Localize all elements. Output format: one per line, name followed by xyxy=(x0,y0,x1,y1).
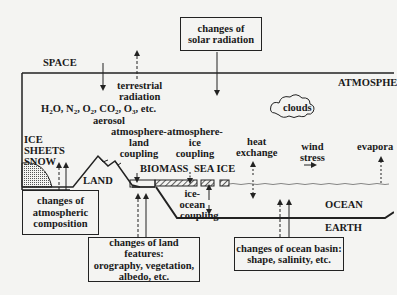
box-line: changes of xyxy=(23,195,98,207)
box-line: shape, salinity, etc. xyxy=(235,254,343,266)
label-line: heat xyxy=(236,136,277,147)
ocean-basin-box: changes of ocean basin: shape, salinity,… xyxy=(234,237,344,271)
box-line: composition xyxy=(23,218,98,230)
label-line: stress xyxy=(300,152,325,163)
label-line: ICE xyxy=(24,134,65,145)
label-line: atmosphere- xyxy=(167,126,223,137)
clouds-label: clouds xyxy=(283,102,312,113)
label-line: terrestrial xyxy=(117,80,162,91)
label-line: ice xyxy=(167,137,223,148)
label-line: ocean xyxy=(166,199,219,210)
ice-ocean-coupling-label: ice- ocean coupling xyxy=(166,188,219,221)
box-line: changes of ocean basin: xyxy=(235,243,343,255)
space-label: SPACE xyxy=(43,57,77,68)
terrestrial-radiation-label: terrestrial radiation xyxy=(117,80,162,102)
label-line: coupling xyxy=(167,148,223,159)
label-line: SHEETS xyxy=(24,145,65,156)
label-line: atmosphere- xyxy=(111,126,167,137)
biomass-label: BIOMASS xyxy=(140,163,188,174)
atmosphere-ice-coupling-label: atmosphere- ice coupling xyxy=(167,126,223,159)
atmosphere-land-coupling-label: atmosphere- land coupling xyxy=(111,126,167,159)
heat-exchange-label: heat exchange xyxy=(236,136,277,158)
land-features-box: changes of land features: orography, veg… xyxy=(88,237,200,282)
box-line: solar radiation xyxy=(181,34,261,46)
box-line: atmospheric xyxy=(23,207,98,219)
sea-ice xyxy=(155,180,197,186)
label-line: SNOW xyxy=(24,156,65,167)
earth-label: EARTH xyxy=(325,222,362,233)
evaporation-label: evapora xyxy=(357,141,393,152)
label-line: coupling xyxy=(111,148,167,159)
box-line: changes of xyxy=(181,23,261,35)
label-line: ice- xyxy=(166,188,219,199)
wind-stress-label: wind stress xyxy=(300,141,325,163)
box-line: albedo, etc. xyxy=(89,271,199,283)
label-line: radiation xyxy=(117,91,162,102)
solar-radiation-box: changes of solar radiation xyxy=(180,17,262,51)
label-line: land xyxy=(111,137,167,148)
atmospheric-composition-box: changes of atmospheric composition xyxy=(22,190,99,235)
ice-sheets-label: ICE SHEETS SNOW xyxy=(24,134,65,167)
gases-label: H2O, N2, O2, CO2, O3, etc. xyxy=(41,103,156,114)
box-line: changes of land features: xyxy=(89,237,199,260)
label-line: wind xyxy=(300,141,325,152)
sea-ice-label: SEA ICE xyxy=(194,163,235,174)
atmosphere-label: ATMOSPHE xyxy=(338,77,397,88)
aerosol-label: aerosol xyxy=(93,115,125,126)
land-label: LAND xyxy=(83,175,113,186)
ocean-label: OCEAN xyxy=(325,199,363,210)
box-line: orography, vegetation, xyxy=(89,260,199,272)
label-line: exchange xyxy=(236,147,277,158)
label-line: coupling xyxy=(166,210,219,221)
